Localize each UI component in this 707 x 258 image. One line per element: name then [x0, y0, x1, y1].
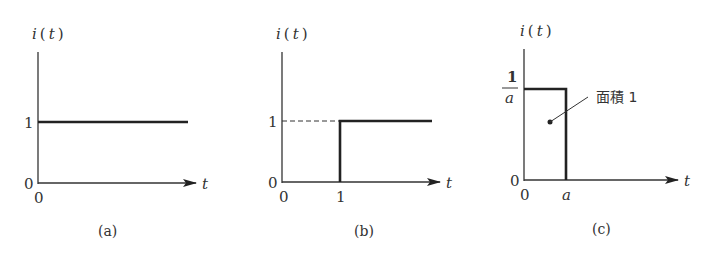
x-tick-1-b: 1: [336, 188, 346, 206]
y-axis-label-c: i(t): [520, 22, 552, 40]
x-tick-0-a: 0: [34, 189, 44, 207]
x-tick-0-b: 0: [279, 188, 289, 206]
caption-c: (c): [592, 221, 611, 237]
pulse-outline-c: [524, 89, 566, 180]
y-tick-1-b: 1: [268, 113, 278, 131]
y-axis-label-b: i(t): [276, 25, 308, 43]
x-tick-0-c: 0: [520, 186, 530, 204]
panel-a: i(t) 1 0 0 t (a): [24, 25, 209, 239]
y-tick-1-over-a-num: 1: [507, 68, 517, 86]
y-tick-0-b: 0: [268, 174, 278, 192]
y-tick-0-a: 0: [24, 175, 34, 193]
area-annotation: 面積 1: [596, 89, 637, 105]
caption-b: (b): [354, 223, 374, 239]
panel-c: i(t) 1 a 0 0 a t 面積 1 (c): [502, 22, 691, 237]
x-axis-label-c: t: [684, 172, 691, 190]
leader-line: [550, 97, 588, 122]
signal-line-b: [340, 121, 432, 182]
x-axis-label-b: t: [446, 174, 453, 192]
caption-a: (a): [98, 223, 117, 239]
y-tick-1-a: 1: [24, 114, 34, 132]
y-tick-0-c: 0: [510, 172, 520, 190]
panel-b: i(t) 1 0 0 1 t (b): [268, 25, 453, 239]
x-axis-label-a: t: [202, 175, 209, 193]
step-function-figures: i(t) 1 0 0 t (a) i(t) 1 0 0 1 t (b) i(t): [0, 0, 707, 258]
x-tick-a-c: a: [562, 186, 571, 204]
y-axis-label-a: i(t): [32, 25, 64, 43]
y-tick-1-over-a-den: a: [505, 89, 514, 107]
